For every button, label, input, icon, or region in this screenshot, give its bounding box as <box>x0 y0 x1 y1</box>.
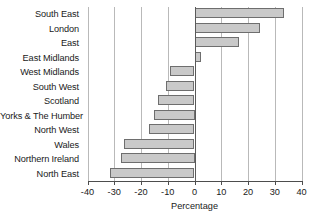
bar <box>195 52 202 62</box>
bar <box>195 23 261 33</box>
tick-label: -10 <box>153 187 183 197</box>
zero-axis-line <box>195 7 196 181</box>
tick-mark <box>168 181 169 185</box>
tick-mark <box>88 181 89 185</box>
tick-mark <box>248 181 249 185</box>
x-axis-title: Percentage <box>88 201 302 211</box>
category-label: North East <box>0 167 84 182</box>
tick-mark <box>195 181 196 185</box>
category-label: East Midlands <box>0 51 84 66</box>
tick-label: 10 <box>206 187 236 197</box>
category-label: North West <box>0 123 84 138</box>
tick-label: 40 <box>287 187 310 197</box>
category-label: London <box>0 22 84 37</box>
category-label: South East <box>0 7 84 22</box>
category-axis: South EastLondonEastEast MidlandsWest Mi… <box>0 7 84 181</box>
bar <box>195 37 239 47</box>
tick-label: 0 <box>180 187 210 197</box>
bar <box>121 153 195 163</box>
category-label: Scotland <box>0 94 84 109</box>
category-label: Yorks & The Humber <box>0 109 84 124</box>
category-label: West Midlands <box>0 65 84 80</box>
tick-label: 20 <box>233 187 263 197</box>
category-label: South West <box>0 80 84 95</box>
tick-label: 30 <box>260 187 290 197</box>
bar <box>124 139 195 149</box>
tick-label: -30 <box>99 187 129 197</box>
bar <box>154 110 194 120</box>
plot-area <box>88 7 302 181</box>
bar <box>110 168 194 178</box>
category-label: East <box>0 36 84 51</box>
category-label: Northern Ireland <box>0 152 84 167</box>
tick-mark <box>141 181 142 185</box>
bar <box>158 95 194 105</box>
tick-mark <box>302 181 303 185</box>
bar <box>195 8 285 18</box>
bar-chart: South EastLondonEastEast MidlandsWest Mi… <box>0 0 309 224</box>
bar <box>166 81 194 91</box>
bar <box>170 66 194 76</box>
tick-mark <box>114 181 115 185</box>
tick-mark <box>221 181 222 185</box>
tick-mark <box>275 181 276 185</box>
bar <box>149 124 194 134</box>
tick-label: -20 <box>126 187 156 197</box>
category-label: Wales <box>0 138 84 153</box>
gridline <box>302 7 303 181</box>
tick-label: -40 <box>73 187 103 197</box>
